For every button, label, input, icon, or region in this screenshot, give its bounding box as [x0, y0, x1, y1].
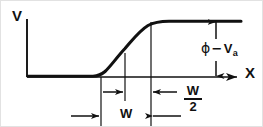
applied-voltage-symbol: V [224, 41, 233, 56]
y-axis-label: V [12, 8, 22, 23]
minus-symbol: − [211, 41, 224, 56]
applied-voltage-subscript: a [233, 48, 238, 58]
half-width-denominator: 2 [184, 100, 202, 114]
phi-symbol: ϕ [201, 40, 211, 56]
width-label: W [120, 107, 132, 120]
potential-drop-label: ϕ−Va [201, 41, 238, 58]
x-axis-label: X [245, 65, 255, 80]
half-width-label: W 2 [184, 85, 202, 114]
potential-profile-figure: V X ϕ−Va W W 2 [0, 0, 263, 127]
half-width-numerator: W [184, 85, 202, 97]
